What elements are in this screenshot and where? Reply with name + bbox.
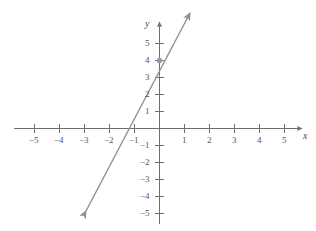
x-tick-label-5: 5 <box>282 136 287 145</box>
x-tick-label--4: −4 <box>54 136 64 145</box>
coordinate-plane-figure: −5 −4 −3 −2 −1 1 2 3 4 5 5 4 3 2 1 −1 −2… <box>0 0 316 231</box>
y-tick-label--1: −1 <box>140 141 150 150</box>
x-tick-label-1: 1 <box>182 136 187 145</box>
x-tick-label--3: −3 <box>79 136 89 145</box>
y-tick-label--3: −3 <box>140 175 150 184</box>
graph-canvas <box>0 0 316 231</box>
line-segment <box>86 13 190 211</box>
y-axis-label: y <box>145 19 149 29</box>
y-axis <box>155 22 164 224</box>
y-tick-label--2: −2 <box>140 158 150 167</box>
x-tick-label-4: 4 <box>257 136 262 145</box>
x-tick-label--1: −1 <box>129 136 139 145</box>
x-tick-label-3: 3 <box>232 136 237 145</box>
x-tick-label--2: −2 <box>104 136 114 145</box>
x-tick-label--5: −5 <box>29 136 39 145</box>
y-tick-label-5: 5 <box>145 39 150 48</box>
plotted-line-y-equals-3x-plus-4 <box>86 13 190 211</box>
y-tick-label--5: −5 <box>140 209 150 218</box>
x-axis <box>14 124 302 133</box>
x-tick-label-2: 2 <box>207 136 212 145</box>
y-tick-label-1: 1 <box>145 107 150 116</box>
y-tick-label-3: 3 <box>145 73 150 82</box>
x-axis-label: x <box>303 131 307 141</box>
y-tick-label-4: 4 <box>145 56 150 65</box>
point-marker-y-intercept <box>157 58 162 63</box>
y-tick-label-2: 2 <box>145 90 150 99</box>
y-tick-label--4: −4 <box>140 192 150 201</box>
